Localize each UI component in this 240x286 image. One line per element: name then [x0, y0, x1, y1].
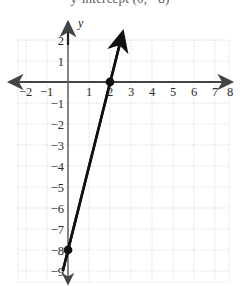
x-tick-1: 1	[86, 85, 92, 99]
y-tick--8: −8	[51, 244, 64, 258]
plotted-line	[63, 33, 123, 271]
x-tick--2: −2	[19, 85, 32, 99]
y-tick-2: 2	[58, 34, 64, 48]
y-tick--1: −1	[51, 97, 64, 111]
y-tick--2: −2	[51, 118, 64, 132]
x-tick-5: 5	[170, 85, 176, 99]
y-tick-1: 1	[58, 55, 64, 69]
x-tick-6: 6	[191, 85, 197, 99]
x-tick-3: 3	[128, 85, 134, 99]
coordinate-plane-svg: y −2 −1 1 2 3 4 5 6 7 8 2 1 −1 −2 −3 −4 …	[0, 0, 240, 286]
grid-horizontal-lines	[18, 40, 229, 282]
y-tick--7: −7	[51, 223, 64, 237]
x-tick-7: 7	[212, 85, 218, 99]
y-tick--4: −4	[51, 160, 65, 174]
y-tick--9: −9	[51, 265, 64, 279]
y-axis-label: y	[77, 16, 84, 30]
grid-vertical-lines	[18, 40, 229, 282]
y-tick--6: −6	[51, 202, 64, 216]
graph-figure: y-intercept (0, −8)	[0, 0, 240, 286]
x-tick-4: 4	[149, 85, 156, 99]
point-y-intercept	[64, 246, 73, 255]
y-tick--5: −5	[51, 181, 64, 195]
y-tick--3: −3	[51, 139, 64, 153]
x-tick-8: 8	[227, 85, 233, 99]
y-tick-labels: 2 1 −1 −2 −3 −4 −5 −6 −7 −8 −9	[51, 34, 65, 279]
point-x-intercept	[106, 78, 115, 87]
